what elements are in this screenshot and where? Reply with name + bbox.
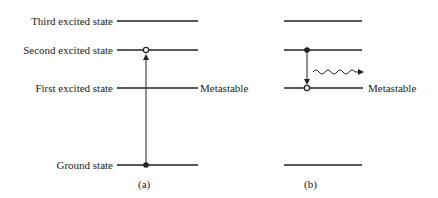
label-metastable-b: Metastable <box>368 82 416 94</box>
label-third-excited: Third excited state <box>0 15 113 27</box>
label-ground: Ground state <box>0 159 113 171</box>
energy-level-diagram: Third excited state Second excited state… <box>0 0 438 198</box>
label-metastable-a: Metastable <box>200 82 248 94</box>
panel-b-levels <box>284 21 363 165</box>
label-second-excited: Second excited state <box>0 44 113 56</box>
metastable-electron <box>304 85 309 90</box>
caption-b: (b) <box>304 178 317 190</box>
caption-a: (a) <box>138 178 150 190</box>
excited-vacancy <box>143 47 148 52</box>
photon-wave <box>313 70 361 74</box>
ground-electron <box>143 162 149 168</box>
label-first-excited: First excited state <box>0 82 113 94</box>
panel-a-levels <box>117 21 198 165</box>
second-state-electron <box>304 47 310 53</box>
